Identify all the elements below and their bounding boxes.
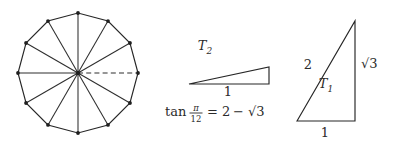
- dodecagon-vertex-dot: [16, 71, 20, 75]
- dodecagon-vertex-dot: [24, 101, 28, 105]
- dodecagon-vertex-dot: [46, 19, 50, 23]
- triangle-t2-label: T2: [198, 38, 213, 56]
- triangle-t2-outline: [189, 67, 269, 84]
- dodecagon-spoke: [26, 43, 78, 73]
- equation: tan π 12 = 2 − √3: [165, 103, 265, 124]
- equation-minus: −: [233, 104, 244, 119]
- dodecagon-vertex-dot: [128, 101, 132, 105]
- dodecagon-vertex-dot: [106, 19, 110, 23]
- equation-radical-three: √3: [248, 104, 265, 119]
- triangle-t2-group: T2 1: [189, 38, 269, 99]
- triangle-t1-label-subscript: 1: [327, 84, 333, 94]
- dodecagon-spoke: [48, 73, 78, 125]
- equation-tan: tan: [165, 104, 187, 119]
- equation-numerator: π: [192, 103, 199, 113]
- dodecagon-vertex-dot: [136, 71, 140, 75]
- dodecagon-spoke: [78, 43, 130, 73]
- dodecagon-vertex-dot: [106, 123, 110, 127]
- dodecagon-vertex-dot: [128, 41, 132, 45]
- dodecagon-center-dot: [76, 71, 80, 75]
- dodecagon-spoke: [26, 73, 78, 103]
- triangle-t1-hypotenuse-label: 2: [304, 57, 312, 72]
- dodecagon-vertex-dot: [76, 11, 80, 15]
- triangle-t1-group: 2 √3 1 T1: [297, 21, 378, 140]
- triangle-t1-vertical-label: √3: [361, 56, 378, 71]
- dodecagon-group: [16, 11, 140, 135]
- dodecagon-spoke: [78, 73, 108, 125]
- equation-two: 2: [222, 104, 230, 119]
- triangle-t1-base-label: 1: [321, 125, 329, 140]
- triangle-t2-base-label: 1: [224, 84, 232, 99]
- geometry-figure: T2 1 tan π 12 = 2 − √3 2 √3 1 T1: [0, 0, 395, 144]
- dodecagon-vertex-dot: [76, 131, 80, 135]
- dodecagon-spoke: [78, 73, 130, 103]
- dodecagon-spoke: [78, 21, 108, 73]
- equation-equals: =: [207, 104, 218, 119]
- dodecagon-vertex-dot: [24, 41, 28, 45]
- triangle-t1-label: T1: [319, 76, 333, 94]
- triangle-t2-label-subscript: 2: [205, 46, 212, 56]
- equation-denominator: 12: [191, 114, 202, 124]
- dodecagon-spoke: [48, 21, 78, 73]
- dodecagon-vertex-dot: [46, 123, 50, 127]
